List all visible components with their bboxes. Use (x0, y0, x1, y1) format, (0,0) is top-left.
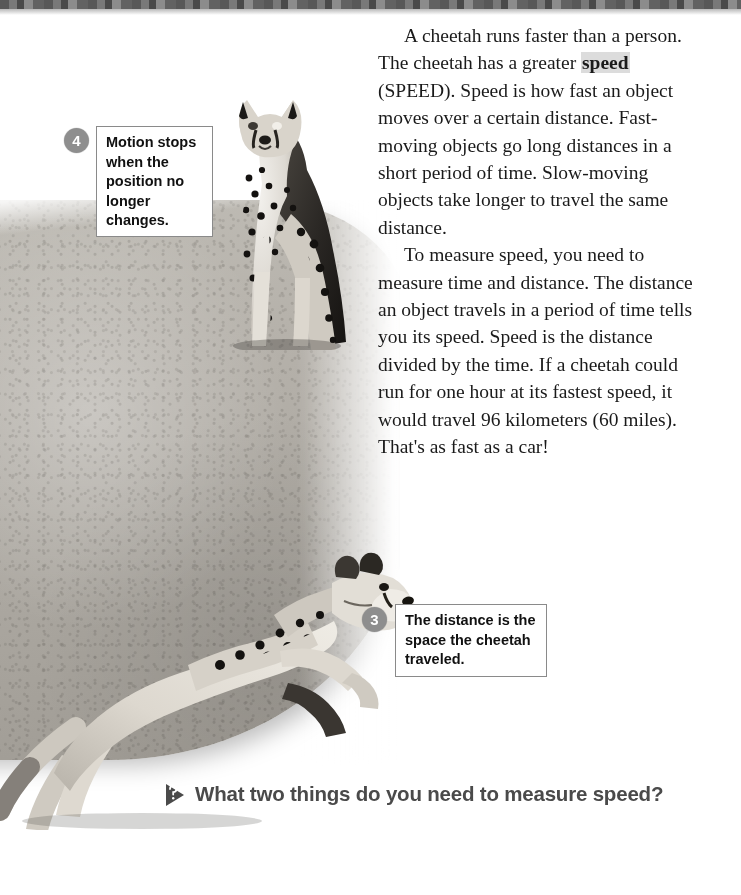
running-cheetah-photo (0, 455, 422, 830)
review-question-text: What two things do you need to measure s… (195, 780, 663, 808)
paragraph-2: To measure speed, you need to measure ti… (378, 241, 708, 460)
paragraph-1: A cheetah runs faster than a person. The… (378, 22, 708, 241)
callout-4-number-badge: 4 (64, 128, 89, 153)
article-text-column: A cheetah runs faster than a person. The… (378, 22, 708, 461)
callout-3-number-badge: 3 (362, 607, 387, 632)
callout-3: 3 The distance is the space the cheetah … (362, 604, 547, 677)
triangle-arrow-icon (163, 782, 187, 808)
callout-4: 4 Motion stops when the position no long… (64, 126, 213, 237)
page-canvas: A cheetah runs faster than a person. The… (0, 0, 741, 895)
paragraph-1-text-after-term: (SPEED). Speed is how fast an object mov… (378, 80, 673, 238)
vocabulary-term-speed: speed (581, 52, 630, 73)
callout-3-text: The distance is the space the cheetah tr… (395, 604, 547, 677)
callout-4-text: Motion stops when the position no longer… (96, 126, 213, 237)
photo-edge-fade (0, 9, 741, 15)
paragraph-1-text-before-term: A cheetah runs faster than a person. The… (378, 25, 682, 73)
review-question: What two things do you need to measure s… (163, 780, 663, 808)
